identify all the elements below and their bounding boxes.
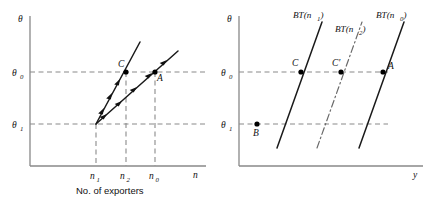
right-ytick-theta0: θ 0 <box>221 68 233 80</box>
left-xtick-n1: n 1 <box>90 171 100 183</box>
svg-text:): ) <box>320 10 324 20</box>
left-xtick-n2: n 2 <box>120 171 131 183</box>
right-point-C-label: C <box>292 58 299 68</box>
svg-text:1: 1 <box>20 125 23 132</box>
svg-text:0: 0 <box>20 73 24 80</box>
left-y-axis-label: θ <box>18 14 23 24</box>
bt-n1-curve <box>277 22 322 148</box>
right-point-Cprime-label: C′ <box>332 58 341 68</box>
svg-text:0: 0 <box>156 176 160 183</box>
right-x-axis-label: y <box>412 170 418 180</box>
left-ytick-theta1: θ 1 <box>12 120 23 132</box>
right-point-B-label: B <box>253 128 259 138</box>
steep-path-arrowheads <box>98 78 122 116</box>
svg-text:n: n <box>90 171 95 181</box>
svg-text:1: 1 <box>229 125 232 132</box>
left-point-A-label: A <box>156 73 163 83</box>
right-panel-bt-schedules: C C′ A B θ y θ 0 θ 1 BT(n 1 ) BT(n 2 ) B… <box>213 0 433 198</box>
bt-n0-curve-label: BT(n 0 ) <box>376 10 407 22</box>
svg-text:n: n <box>120 171 125 181</box>
right-point-A-label: A <box>387 61 394 71</box>
svg-text:θ: θ <box>12 68 17 78</box>
svg-text:θ: θ <box>221 68 226 78</box>
right-y-axis-label: θ <box>227 14 232 24</box>
left-xtick-n0: n 0 <box>149 171 160 183</box>
bt-n1-curve-label: BT(n 1 ) <box>293 10 324 22</box>
bt-n2-curve <box>317 22 362 148</box>
right-point-Cprime <box>338 69 343 74</box>
right-point-C <box>298 69 303 74</box>
svg-text:BT(n: BT(n <box>376 10 395 20</box>
svg-text:BT(n: BT(n <box>335 24 354 34</box>
bt-n0-curve <box>359 22 404 148</box>
svg-text:BT(n: BT(n <box>293 10 312 20</box>
left-point-C-label: C <box>118 59 125 69</box>
svg-text:0: 0 <box>229 73 233 80</box>
right-point-B <box>254 121 259 126</box>
svg-text:n: n <box>149 171 154 181</box>
economics-figure: C A θ n θ 0 θ 1 n 1 n 2 n 0 No. of expor… <box>0 0 433 198</box>
svg-text:): ) <box>362 24 366 34</box>
left-ytick-theta0: θ 0 <box>12 68 24 80</box>
svg-text:2: 2 <box>127 176 131 183</box>
left-x-axis-label: n <box>193 170 198 180</box>
svg-text:1: 1 <box>97 176 100 183</box>
right-point-A <box>380 69 385 74</box>
svg-text:θ: θ <box>12 120 17 130</box>
bt-n2-curve-label: BT(n 2 ) <box>335 24 366 36</box>
right-ytick-theta1: θ 1 <box>221 120 232 132</box>
left-point-C <box>123 69 128 74</box>
svg-text:): ) <box>403 10 407 20</box>
left-panel-caption: No. of exporters <box>76 185 144 196</box>
left-panel-number-of-exporters: C A θ n θ 0 θ 1 n 1 n 2 n 0 No. of expor… <box>0 0 213 198</box>
svg-text:θ: θ <box>221 120 226 130</box>
